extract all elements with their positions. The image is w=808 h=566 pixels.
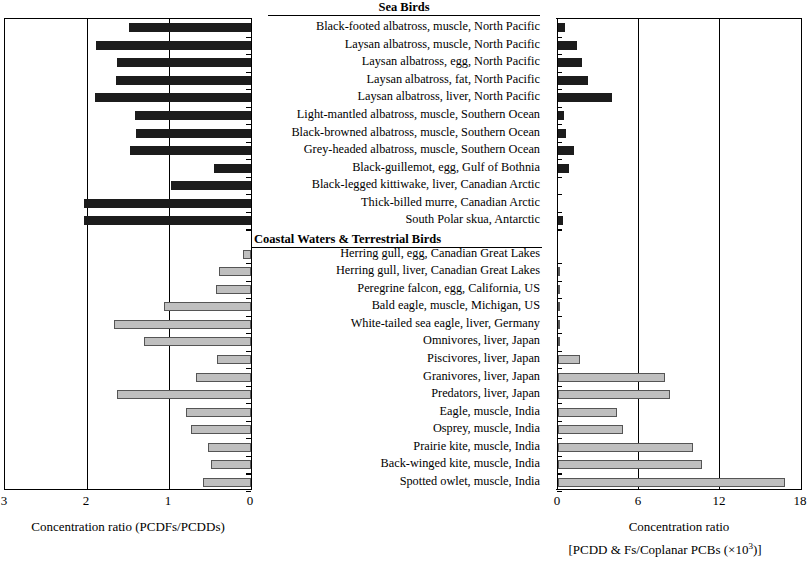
left-axis-caption: Concentration ratio (PCDFs/PCDDs) <box>4 519 252 535</box>
right-bar <box>558 355 580 364</box>
right-axis-tick <box>557 351 562 352</box>
left-bar <box>171 181 251 190</box>
left-axis-tick <box>246 263 251 264</box>
category-label: Spotted owlet, muscle, India <box>400 474 540 489</box>
left-axis-tick <box>246 473 251 474</box>
right-axis-tick <box>557 491 562 492</box>
category-label: Herring gull, egg, Canadian Great Lakes <box>340 246 540 261</box>
left-axis-tick <box>246 54 251 55</box>
left-axis-tick <box>246 107 251 108</box>
right-axis-tick <box>557 368 562 369</box>
left-axis-tick <box>246 438 251 439</box>
category-label: Peregrine falcon, egg, California, US <box>357 281 540 296</box>
right-bar <box>558 76 588 85</box>
left-bar <box>129 23 251 32</box>
right-axis-caption-line2: [PCDD & Fs/Coplanar PCBs (×103)] <box>522 538 808 558</box>
left-axis-tick <box>246 142 251 143</box>
right-axis-tick <box>557 159 562 160</box>
category-label: Laysan albatross, muscle, North Pacific <box>345 37 540 52</box>
left-axis-tick <box>246 194 251 195</box>
left-axis-tick <box>246 456 251 457</box>
right-axis-caption-line1: Concentration ratio <box>556 519 802 535</box>
category-label: Thick-billed murre, Canadian Arctic <box>361 195 540 210</box>
category-label: Prairie kite, muscle, India <box>413 439 540 454</box>
category-label: Omnivores, liver, Japan <box>423 333 540 348</box>
right-axis-tick <box>557 212 562 213</box>
right-axis-tick-label: 6 <box>623 494 653 508</box>
left-axis-tick <box>246 386 251 387</box>
right-bar <box>558 146 574 155</box>
left-axis-tick <box>246 316 251 317</box>
right-axis-tick <box>557 142 562 143</box>
category-label: Light-mantled albatross, muscle, Souther… <box>297 107 540 122</box>
right-bar <box>558 93 612 102</box>
left-bar <box>116 76 251 85</box>
left-axis-tick <box>246 159 251 160</box>
right-axis-tick <box>557 37 562 38</box>
left-bar <box>96 41 251 50</box>
right-bar <box>558 129 566 138</box>
right-axis-tick <box>557 194 562 195</box>
right-axis-tick <box>557 281 562 282</box>
left-axis-tick <box>246 298 251 299</box>
left-axis-tick <box>246 177 251 178</box>
category-label: Black-browned albatross, muscle, Souther… <box>291 125 540 140</box>
left-bar <box>203 478 251 487</box>
left-bar <box>117 390 251 399</box>
right-bar <box>558 425 623 434</box>
category-label: Piscivores, liver, Japan <box>427 351 540 366</box>
right-bar <box>558 41 577 50</box>
category-label: Black-legged kittiwake, liver, Canadian … <box>312 177 540 192</box>
left-axis-tick <box>246 491 251 492</box>
right-axis-tick <box>557 89 562 90</box>
left-axis-tick-label: 1 <box>153 494 183 508</box>
category-label: Herring gull, liver, Canadian Great Lake… <box>336 263 540 278</box>
right-bar <box>558 285 560 294</box>
right-bar <box>558 111 564 120</box>
right-gridline <box>638 19 639 489</box>
category-label: Black-footed albatross, muscle, North Pa… <box>316 19 540 34</box>
right-axis-tick-label: 0 <box>542 494 572 508</box>
left-bar <box>84 216 251 225</box>
category-label: Bald eagle, muscle, Michigan, US <box>372 298 540 313</box>
right-bar <box>558 443 693 452</box>
left-axis-tick <box>246 37 251 38</box>
category-label-column: Black-footed albatross, muscle, North Pa… <box>252 18 542 490</box>
left-axis-tick <box>246 351 251 352</box>
right-axis-tick <box>557 72 562 73</box>
left-bar <box>164 302 251 311</box>
category-label: Laysan albatross, liver, North Pacific <box>357 89 540 104</box>
right-axis-tick <box>557 403 562 404</box>
left-chart-panel <box>4 18 252 490</box>
left-bar <box>208 443 251 452</box>
right-axis-tick <box>557 438 562 439</box>
left-bar <box>114 320 251 329</box>
right-bar <box>558 408 617 417</box>
left-axis-tick <box>246 368 251 369</box>
category-label: Black-guillemot, egg, Gulf of Bothnia <box>352 160 540 175</box>
left-bar <box>219 267 251 276</box>
left-axis-tick <box>246 72 251 73</box>
right-axis-tick <box>557 386 562 387</box>
left-bar <box>214 164 251 173</box>
category-label: Osprey, muscle, India <box>433 421 540 436</box>
right-bar <box>558 478 785 487</box>
right-axis-tick <box>557 333 562 334</box>
left-axis-tick <box>246 421 251 422</box>
category-label: Granivores, liver, Japan <box>423 369 540 384</box>
left-axis-tick-label: 0 <box>235 494 265 508</box>
left-axis-tick-label: 2 <box>71 494 101 508</box>
right-gridline <box>719 19 720 489</box>
category-label: Back-winged kite, muscle, India <box>381 456 540 471</box>
right-bar <box>558 216 563 225</box>
left-bar <box>191 425 251 434</box>
left-axis-tick <box>246 229 251 230</box>
left-axis-tick <box>246 212 251 213</box>
right-axis-caption-prefix: [PCDD & Fs/Coplanar PCBs (×10 <box>568 542 748 557</box>
left-bar <box>196 373 251 382</box>
left-axis-tick <box>246 89 251 90</box>
left-axis-tick <box>246 124 251 125</box>
category-label: Laysan albatross, fat, North Pacific <box>367 72 540 87</box>
right-axis-tick <box>557 229 562 230</box>
category-label: Grey-headed albatross, muscle, Southern … <box>304 142 540 157</box>
